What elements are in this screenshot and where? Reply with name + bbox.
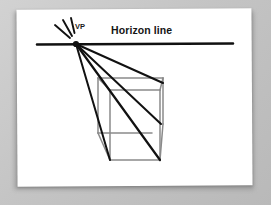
vanishing-point-label: VP	[75, 22, 85, 31]
diagram-scene: Horizon line VP	[0, 0, 271, 205]
horizon-line-label: Horizon line	[111, 24, 172, 36]
